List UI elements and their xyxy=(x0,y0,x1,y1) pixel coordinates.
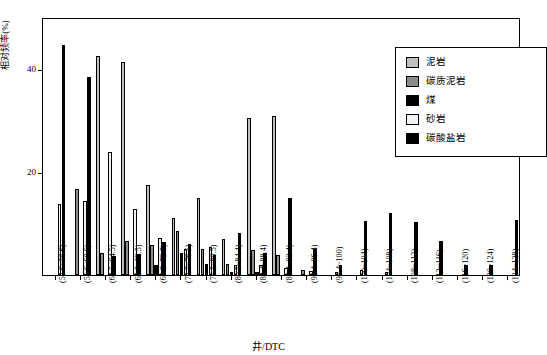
x-tick-mark xyxy=(105,276,106,280)
bar xyxy=(100,253,104,275)
legend-swatch xyxy=(406,133,419,144)
x-tick-mark xyxy=(55,276,56,280)
bar xyxy=(62,45,66,275)
x-tick-mark xyxy=(482,276,483,280)
x-tick-mark xyxy=(382,276,383,280)
x-tick-mark xyxy=(407,276,408,280)
x-tick-label: (112~116) xyxy=(435,249,444,283)
x-tick-label: (72.5~76.5) xyxy=(184,244,193,283)
y-axis-label: 相对频率(%) xyxy=(0,0,11,105)
x-tick-mark xyxy=(356,276,357,280)
x-tick-mark xyxy=(130,276,131,280)
x-tick-mark xyxy=(256,276,257,280)
bar xyxy=(96,56,100,275)
x-tick-label: (92.4~96.4) xyxy=(310,244,319,283)
legend-label: 泥岩 xyxy=(426,56,446,69)
legend-label: 碳酸盐岩 xyxy=(426,132,466,145)
x-tick-label: (64.5~68.5) xyxy=(134,244,143,283)
x-tick-label: (108~112) xyxy=(410,249,419,283)
x-tick-label: (60.5~64.5) xyxy=(108,244,117,283)
bar xyxy=(276,255,280,275)
y-tick-label: 40 xyxy=(10,64,36,74)
x-tick-label: (88.4~92.4) xyxy=(285,244,294,283)
x-tick-label: (100~104) xyxy=(360,249,369,283)
legend-swatch xyxy=(406,114,419,125)
x-tick-label: (68.5~72.5) xyxy=(159,244,168,283)
y-tick-label: 20 xyxy=(10,167,36,177)
x-tick-label: (116~120) xyxy=(461,249,470,283)
x-tick-label: (76.5~80.5) xyxy=(209,244,218,283)
x-tick-mark xyxy=(80,276,81,280)
plot-area: 泥岩碳质泥岩煤砂岩碳酸盐岩 xyxy=(42,18,520,276)
x-tick-mark xyxy=(206,276,207,280)
x-tick-mark xyxy=(155,276,156,280)
x-tick-label: (120~124) xyxy=(486,249,495,283)
x-tick-mark xyxy=(331,276,332,280)
x-tick-label: (84.4~88.4) xyxy=(259,244,268,283)
y-tick-mark xyxy=(38,70,42,71)
legend-label: 砂岩 xyxy=(426,113,446,126)
x-tick-mark xyxy=(507,276,508,280)
x-tick-mark xyxy=(180,276,181,280)
legend-swatch xyxy=(406,57,419,68)
bar xyxy=(251,250,255,275)
legend-label: 煤 xyxy=(426,94,436,107)
x-tick-mark xyxy=(281,276,282,280)
bar xyxy=(301,270,305,275)
x-tick-label: (80.5~84.4) xyxy=(234,244,243,283)
legend-swatch xyxy=(406,95,419,106)
x-tick-mark xyxy=(432,276,433,280)
x-tick-label: (124~128) xyxy=(511,249,520,283)
x-tick-label: (104~108) xyxy=(385,249,394,283)
x-axis-label: 井/DTC xyxy=(0,338,537,353)
x-tick-mark xyxy=(306,276,307,280)
x-tick-mark xyxy=(231,276,232,280)
y-tick-mark xyxy=(38,173,42,174)
x-tick-label: (56.6~60.6) xyxy=(83,244,92,283)
x-tick-label: (96.4~100) xyxy=(335,247,344,284)
x-tick-mark xyxy=(457,276,458,280)
legend-swatch xyxy=(406,76,419,87)
x-tick-label: (52.6~56.6) xyxy=(58,244,67,283)
chart-legend: 泥岩碳质泥岩煤砂岩碳酸盐岩 xyxy=(395,47,547,157)
bar xyxy=(75,189,79,275)
legend-label: 碳质泥岩 xyxy=(426,75,466,88)
bar xyxy=(125,241,129,275)
bar xyxy=(272,116,276,275)
